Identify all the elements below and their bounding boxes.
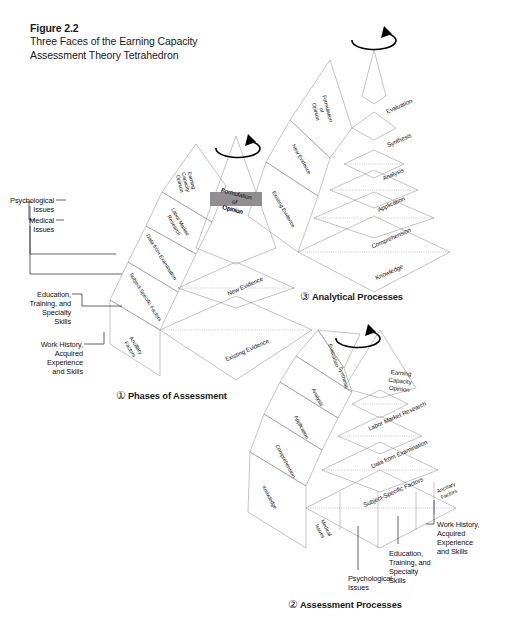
svg-text:Subject-Specific Factors: Subject-Specific Factors	[128, 272, 163, 323]
svg-text:New Evidence: New Evidence	[226, 274, 264, 296]
svg-text:Evaluation: Evaluation	[327, 343, 340, 368]
pyramid-assessment-processes: Earning Capacity Opinion Labor Market Re…	[248, 324, 479, 592]
callout3-work-history-l2: Acquired	[437, 529, 465, 538]
label-side-labor-market-research: Labor Market Research	[164, 207, 191, 241]
label3-base-medical-issues: Medical Issues	[313, 518, 333, 540]
rotation-arrow-icon-2	[352, 26, 396, 50]
pyramid-analytical-processes: Evaluation Synthesis Analysis Applicatio…	[248, 26, 452, 294]
callout3-work-history-l4: and Skills	[437, 547, 468, 556]
svg-text:Subject-Specific Factors: Subject-Specific Factors	[362, 475, 424, 508]
svg-text:New Evidence: New Evidence	[291, 143, 313, 175]
label-front-new-evidence: New Evidence	[226, 274, 264, 296]
callout3-education-l1: Education,	[389, 549, 423, 558]
pyramid-phases-of-assessment: Formulation Formulation of Opinion Formu…	[10, 134, 312, 380]
label-side2-formulation: Formulation of Opinion	[310, 94, 335, 125]
side3-tier-comprehension	[250, 414, 322, 486]
callout3-work-history-l1: Work History,	[437, 520, 479, 529]
caption-phases-of-assessment: ①Phases of Assessment	[116, 389, 227, 401]
label-side-earning-capacity-opinion: Earning Capacity Opinion	[175, 170, 198, 195]
callout-work-history-l1: Work History,	[41, 340, 83, 349]
callout-education-l3: Specialty	[42, 308, 71, 317]
label3-side-analysis: Analysis	[311, 387, 326, 407]
svg-text:Opinion: Opinion	[311, 102, 321, 121]
svg-text:Existing Evidence: Existing Evidence	[224, 337, 271, 363]
label3-side-evaluation: Evaluation	[327, 343, 340, 368]
callout3-education-l3: Specialty	[389, 567, 418, 576]
svg-text:Data from Examination: Data from Examination	[145, 233, 178, 281]
callout3-work-history-l3: Experience	[437, 538, 473, 547]
side3-tier-knowledge	[248, 452, 306, 548]
callout-medical-l1: Medical	[29, 216, 54, 225]
caption-marker-1: ①	[116, 389, 126, 401]
svg-text:Knowledge: Knowledge	[261, 484, 278, 510]
label3-side-synthesis: Synthesis	[338, 366, 351, 390]
svg-text:Synthesis: Synthesis	[338, 366, 351, 390]
label-side-ancillary-factors: Ancillary Factors	[123, 335, 145, 359]
label3-side-application: Application	[293, 414, 310, 439]
callout3-psychological-l1: Psychological	[348, 574, 392, 583]
callout-education-l4: Skills	[54, 317, 71, 326]
leader-education-2	[82, 294, 122, 306]
label3-ancillary-factors: Ancillary Factors	[436, 481, 460, 501]
svg-text:Application: Application	[293, 414, 310, 439]
caption-marker-3: ③	[300, 290, 310, 302]
rotation-arrow-icon	[216, 134, 260, 158]
callout3-education-l4: Skills	[389, 576, 406, 585]
caption-analytical-processes: ③Analytical Processes	[300, 290, 403, 302]
caption-text-3: Analytical Processes	[312, 292, 403, 302]
label-side2-new-evidence: New Evidence	[291, 143, 313, 175]
callout-work-history-l2: Acquired	[55, 349, 83, 358]
caption-assessment-processes: ②Assessment Processes	[288, 598, 402, 610]
label-side2-existing-evidence: Existing Evidence	[271, 190, 297, 229]
callout3-education-l2: Training, and	[389, 558, 431, 567]
label-front-existing-evidence: Existing Evidence	[224, 337, 271, 363]
svg-text:Opinion: Opinion	[389, 384, 410, 393]
side3-tier-application	[264, 382, 338, 450]
label3-subject-specific-factors: Subject-Specific Factors	[362, 475, 424, 508]
front3-tier-subject-specific	[322, 442, 438, 492]
label3-side-knowledge: Knowledge	[261, 484, 278, 510]
callout3-psychological-l2: Issues	[348, 583, 369, 592]
caption-text-2: Assessment Processes	[300, 600, 402, 610]
caption-text-1: Phases of Assessment	[128, 391, 227, 401]
leader-work-history	[84, 332, 104, 344]
label-side-subject-specific-factors: Subject-Specific Factors	[128, 272, 163, 323]
callout-work-history-l4: and Skills	[52, 367, 83, 376]
callout-work-history-l3: Experience	[47, 358, 83, 367]
callout-education-l2: Training, and	[29, 299, 71, 308]
callout-medical-l2: Issues	[33, 225, 54, 234]
caption-marker-2: ②	[288, 598, 298, 610]
panel-phases-of-assessment: Formulation Formulation of Opinion Formu…	[0, 0, 527, 636]
callout-education-l1: Education,	[37, 290, 71, 299]
figure-root: Figure 2.2 Three Faces of the Earning Ca…	[0, 0, 527, 636]
rotation-arrow-icon-3	[336, 324, 380, 348]
svg-text:Analysis: Analysis	[311, 387, 326, 407]
callout-psychological-l2: Issues	[33, 205, 54, 214]
label-side-data-from-examination: Data from Examination	[145, 233, 178, 281]
svg-text:Existing Evidence: Existing Evidence	[271, 190, 297, 229]
callout-psychological-l1: Psychological	[10, 196, 54, 205]
